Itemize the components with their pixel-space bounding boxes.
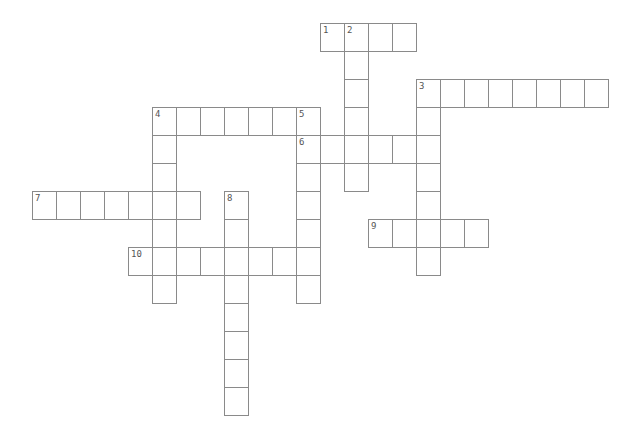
clue-number: 1 <box>323 26 328 35</box>
crossword-cell[interactable] <box>176 191 201 220</box>
crossword-cell[interactable] <box>272 107 297 136</box>
crossword-cell[interactable]: 9 <box>368 219 393 248</box>
crossword-cell[interactable] <box>200 247 225 276</box>
crossword-cell[interactable] <box>296 219 321 248</box>
crossword-cell[interactable] <box>224 247 249 276</box>
crossword-cell[interactable] <box>200 107 225 136</box>
crossword-cell[interactable] <box>488 79 513 108</box>
crossword-cell[interactable]: 6 <box>296 135 321 164</box>
crossword-cell[interactable] <box>416 163 441 192</box>
crossword-cell[interactable] <box>152 247 177 276</box>
crossword-cell[interactable] <box>248 247 273 276</box>
crossword-cell[interactable] <box>248 107 273 136</box>
crossword-cell[interactable]: 4 <box>152 107 177 136</box>
crossword-cell[interactable]: 7 <box>32 191 57 220</box>
crossword-cell[interactable] <box>536 79 561 108</box>
crossword-cell[interactable] <box>416 247 441 276</box>
crossword-cell[interactable] <box>344 163 369 192</box>
crossword-cell[interactable] <box>296 163 321 192</box>
crossword-cell[interactable] <box>224 387 249 416</box>
crossword-cell[interactable] <box>416 107 441 136</box>
crossword-cell[interactable] <box>296 191 321 220</box>
crossword-cell[interactable] <box>416 191 441 220</box>
crossword-cell[interactable] <box>560 79 585 108</box>
crossword-cell[interactable] <box>152 135 177 164</box>
crossword-cell[interactable] <box>368 135 393 164</box>
crossword-cell[interactable] <box>296 275 321 304</box>
crossword-cell[interactable] <box>344 107 369 136</box>
crossword-cell[interactable]: 8 <box>224 191 249 220</box>
crossword-cell[interactable] <box>176 107 201 136</box>
crossword-cell[interactable] <box>320 135 345 164</box>
crossword-cell[interactable] <box>344 79 369 108</box>
crossword-cell[interactable] <box>440 219 465 248</box>
crossword-cell[interactable] <box>152 275 177 304</box>
clue-number: 3 <box>419 82 424 91</box>
crossword-cell[interactable] <box>176 247 201 276</box>
crossword-cell[interactable] <box>440 79 465 108</box>
crossword-cell[interactable] <box>224 359 249 388</box>
crossword-cell[interactable] <box>368 23 393 52</box>
crossword-grid: 12345678910 <box>0 0 638 440</box>
crossword-cell[interactable] <box>152 191 177 220</box>
clue-number: 7 <box>35 194 40 203</box>
crossword-cell[interactable] <box>344 135 369 164</box>
crossword-cell[interactable] <box>224 107 249 136</box>
clue-number: 8 <box>227 194 232 203</box>
crossword-cell[interactable] <box>512 79 537 108</box>
crossword-cell[interactable]: 1 <box>320 23 345 52</box>
clue-number: 9 <box>371 222 376 231</box>
crossword-cell[interactable] <box>392 219 417 248</box>
crossword-cell[interactable] <box>464 219 489 248</box>
crossword-cell[interactable] <box>224 303 249 332</box>
crossword-cell[interactable] <box>272 247 297 276</box>
crossword-cell[interactable] <box>152 163 177 192</box>
crossword-cell[interactable]: 10 <box>128 247 153 276</box>
crossword-cell[interactable] <box>56 191 81 220</box>
crossword-cell[interactable] <box>224 331 249 360</box>
crossword-cell[interactable] <box>128 191 153 220</box>
crossword-cell[interactable] <box>416 135 441 164</box>
crossword-cell[interactable] <box>416 219 441 248</box>
crossword-cell[interactable]: 5 <box>296 107 321 136</box>
clue-number: 4 <box>155 110 160 119</box>
crossword-cell[interactable] <box>80 191 105 220</box>
crossword-cell[interactable]: 2 <box>344 23 369 52</box>
clue-number: 10 <box>131 250 142 259</box>
crossword-cell[interactable] <box>224 275 249 304</box>
clue-number: 6 <box>299 138 304 147</box>
crossword-cell[interactable] <box>104 191 129 220</box>
crossword-cell[interactable] <box>344 51 369 80</box>
crossword-cell[interactable]: 3 <box>416 79 441 108</box>
crossword-cell[interactable] <box>296 247 321 276</box>
clue-number: 2 <box>347 26 352 35</box>
crossword-cell[interactable] <box>152 219 177 248</box>
clue-number: 5 <box>299 110 304 119</box>
crossword-cell[interactable] <box>584 79 609 108</box>
crossword-cell[interactable] <box>392 23 417 52</box>
crossword-cell[interactable] <box>464 79 489 108</box>
crossword-cell[interactable] <box>392 135 417 164</box>
crossword-cell[interactable] <box>224 219 249 248</box>
